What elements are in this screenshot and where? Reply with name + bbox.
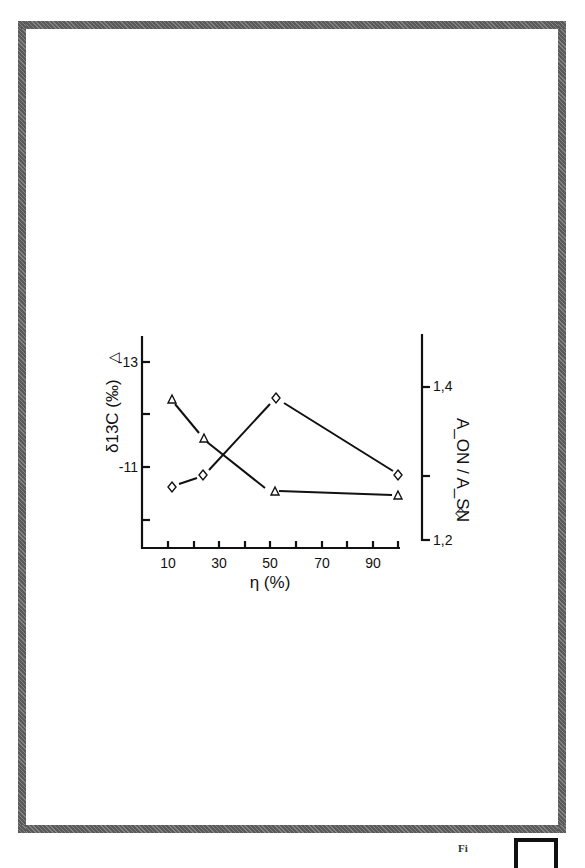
left-y-axis bbox=[142, 336, 150, 549]
svg-text:1,2: 1,2 bbox=[433, 532, 453, 548]
figure-number-box bbox=[514, 838, 558, 868]
diamond-marker-icon bbox=[199, 470, 207, 480]
svg-text:δ13C (‰): δ13C (‰) bbox=[103, 379, 122, 453]
svg-text:A_ON / A_SN: A_ON / A_SN bbox=[453, 418, 472, 522]
svg-text:1,4: 1,4 bbox=[433, 378, 453, 394]
svg-text:70: 70 bbox=[314, 555, 330, 571]
triangle-marker-icon bbox=[271, 487, 279, 495]
svg-text:50: 50 bbox=[262, 555, 278, 571]
diamond-marker-icon bbox=[394, 470, 402, 480]
x-axis-title: η (%) bbox=[250, 573, 291, 592]
svg-text:90: 90 bbox=[365, 555, 381, 571]
x-axis bbox=[142, 541, 400, 548]
diamond-marker-key-icon: ◇ bbox=[454, 508, 470, 519]
svg-text:10: 10 bbox=[160, 555, 176, 571]
svg-text:30: 30 bbox=[211, 555, 227, 571]
svg-text:-11: -11 bbox=[119, 459, 138, 475]
figure-label: Fi bbox=[458, 842, 468, 854]
right-tick-labels: 1,4 1,2 bbox=[433, 378, 453, 548]
right-y-axis bbox=[422, 334, 430, 541]
triangle-marker-icon bbox=[168, 395, 176, 403]
diamond-marker-icon bbox=[168, 482, 176, 492]
diamond-marker-icon bbox=[272, 393, 280, 403]
series-delta13c bbox=[168, 395, 402, 499]
triangle-marker-key-icon: △ bbox=[105, 352, 121, 363]
x-tick-labels: 10 30 50 70 90 bbox=[160, 555, 381, 571]
triangle-marker-icon bbox=[394, 491, 402, 499]
triangle-marker-icon bbox=[200, 434, 208, 442]
right-axis-title: A_ON / A_SN ◇ bbox=[453, 418, 472, 522]
